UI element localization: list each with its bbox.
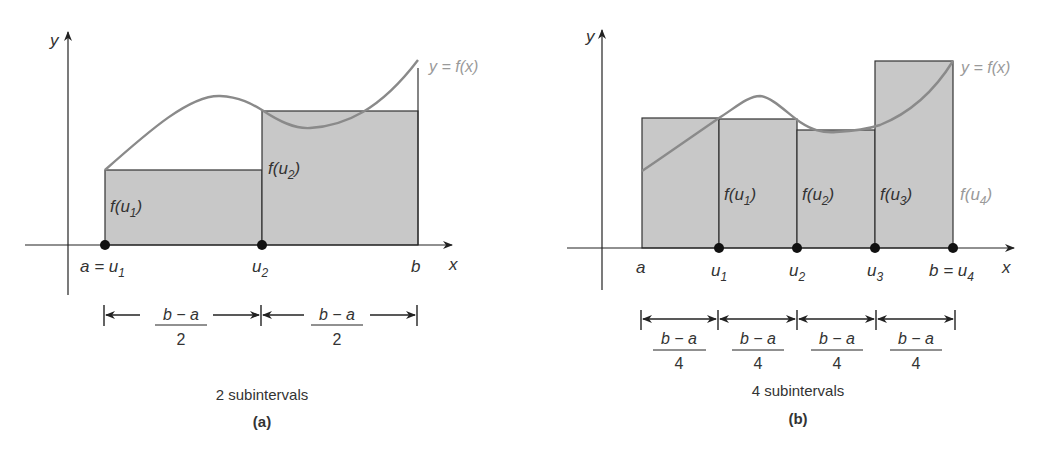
interval-denom-b-3: 4 [833,355,842,372]
label-f-u4-b: f(u4) [960,185,992,208]
interval-numer-b-3: b − a [819,330,855,347]
interval-denom-a-1: 2 [177,331,186,348]
rect-b-1 [642,118,719,248]
panel-b: y x y = f(x) a u1 u2 u3 b = u4 f(u1) f(u… [567,27,1014,427]
label-u1-b: u1 [711,261,727,284]
riemann-sum-figure: y x y = f(x) a = u1 u2 b f(u1) f(u2) b −… [0,0,1050,460]
interval-numer-b-1: b − a [661,330,697,347]
x-axis-label-b: x [1001,258,1011,277]
curve-label-b: y = f(x) [960,59,1010,76]
x-axis-label-a: x [448,255,458,274]
interval-denom-a-2: 2 [333,331,342,348]
label-b-eq-u4: b = u4 [929,261,974,284]
interval-numer-a-1: b − a [163,306,199,323]
point-u4-b [948,243,958,253]
tag-a: (a) [253,413,271,430]
rect-b-2 [719,119,797,248]
y-axis-label-a: y [49,31,60,50]
interval-denom-b-1: 4 [675,355,684,372]
label-u3-b: u3 [867,261,883,284]
caption-a: 2 subintervals [216,386,309,403]
label-b: b [411,257,420,276]
point-u2 [257,240,267,250]
rect-b-4 [875,61,953,248]
point-u1-b [714,243,724,253]
interval-numer-b-2: b − a [740,330,776,347]
y-axis-label-b: y [585,27,596,46]
interval-numer-a-2: b − a [319,306,355,323]
interval-denom-b-4: 4 [912,355,921,372]
point-u3-b [870,243,880,253]
interval-numer-b-4: b − a [898,330,934,347]
label-u2-b: u2 [789,261,805,284]
interval-brackets-a [104,305,417,326]
panel-a: y x y = f(x) a = u1 u2 b f(u1) f(u2) b −… [25,31,478,430]
label-a-eq-u1: a = u1 [80,257,125,280]
rect-a-2 [262,111,418,245]
curve-label-a: y = f(x) [428,58,478,75]
tag-b: (b) [788,410,807,427]
interval-denom-b-2: 4 [754,355,763,372]
point-a-u1 [100,240,110,250]
point-u2-b [792,243,802,253]
caption-b: 4 subintervals [752,382,845,399]
label-a-b: a [636,258,645,277]
label-u2: u2 [252,257,268,280]
